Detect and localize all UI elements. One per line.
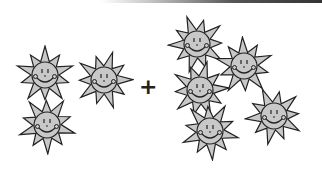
sun-smiley-icon	[244, 86, 304, 146]
sun-smiley-icon	[74, 50, 134, 110]
top-gradient-bar	[100, 0, 322, 3]
sun-smiley-icon	[180, 101, 240, 161]
sun-smiley-icon	[17, 95, 77, 155]
plus-sign: +	[139, 76, 157, 98]
